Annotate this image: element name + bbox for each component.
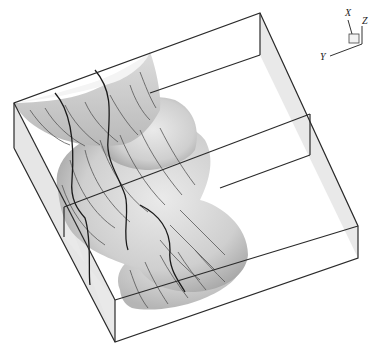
figure-canvas: X Z Y [0,0,374,355]
axis-triad-cube [349,34,359,43]
x-axis-line [348,20,352,34]
axis-triad: X Z Y [320,7,368,62]
y-axis-label: Y [320,51,327,62]
z-axis-label: Z [362,15,368,26]
isosurface-top-cup [14,52,160,146]
x-axis-label: X [344,7,352,18]
y-axis-line [330,44,362,56]
